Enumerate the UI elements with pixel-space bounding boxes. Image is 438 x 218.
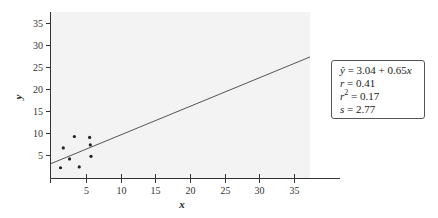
r-value: = 0.41 [344, 77, 375, 89]
x-tick-label: 15 [151, 185, 161, 196]
x-axis-label: x [178, 198, 185, 210]
x-tick-label: 35 [290, 185, 300, 196]
regression-equation: ŷ = 3.04 + 0.65x [340, 64, 424, 77]
correlation-r: r = 0.41 [340, 77, 424, 90]
data-point [88, 136, 91, 139]
s-value: = 2.77 [344, 103, 375, 115]
y-axis-label: y [12, 94, 24, 101]
r2-value: = 0.17 [348, 90, 379, 102]
data-point [73, 135, 76, 138]
x-tick-label: 25 [221, 185, 231, 196]
y-tick-label: 35 [33, 18, 43, 29]
equation-variable: x [407, 64, 412, 76]
data-point [78, 165, 81, 168]
plot-area [50, 12, 310, 178]
equation-value: = 3.04 + 0.65 [345, 64, 407, 76]
r-squared: r2 = 0.17 [340, 90, 424, 103]
data-point [62, 146, 65, 149]
y-tick-label: 10 [33, 128, 43, 139]
x-tick-label: 30 [255, 185, 265, 196]
x-tick-label: 20 [186, 185, 196, 196]
data-point [89, 143, 92, 146]
x-tick-label: 5 [84, 185, 89, 196]
y-tick-label: 20 [33, 84, 43, 95]
x-tick-label: 10 [117, 185, 127, 196]
regression-stats-box: ŷ = 3.04 + 0.65x r = 0.41 r2 = 0.17 s = … [331, 60, 425, 119]
data-point [68, 157, 71, 160]
y-tick-label: 30 [33, 40, 43, 51]
data-point [59, 166, 62, 169]
y-tick-label: 5 [38, 150, 43, 161]
data-point [89, 155, 92, 158]
y-axis-ticks: 5101520253035 [33, 18, 51, 161]
standard-error-s: s = 2.77 [340, 103, 424, 116]
y-tick-label: 15 [33, 106, 43, 117]
y-tick-label: 25 [33, 62, 43, 73]
